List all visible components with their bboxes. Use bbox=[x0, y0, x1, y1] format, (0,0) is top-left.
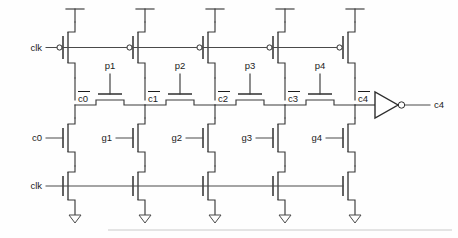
vdd-terminal bbox=[136, 9, 154, 22]
ground-symbol bbox=[209, 215, 221, 223]
column-spines-mid bbox=[75, 105, 355, 118]
pmos-transistor bbox=[127, 22, 145, 78]
pass-gate-label-p4: p4 bbox=[315, 60, 326, 71]
schematic-canvas: clk bbox=[0, 0, 458, 238]
node-label-cbar4: c4 bbox=[358, 92, 370, 105]
pmos-transistor bbox=[337, 22, 355, 78]
node-label-text: c0 bbox=[78, 93, 88, 104]
node-label-cbar0: c0 bbox=[78, 92, 90, 105]
vdd-terminal bbox=[206, 9, 224, 22]
node-label-text: c2 bbox=[218, 93, 228, 104]
circuit-schematic: clk bbox=[0, 0, 458, 238]
node-label-cbar2: c2 bbox=[218, 92, 230, 105]
generate-gate-label-g2: g2 bbox=[171, 132, 182, 143]
ground-symbol bbox=[139, 215, 151, 223]
ground-symbol bbox=[279, 215, 291, 223]
nmos-transistor bbox=[186, 118, 215, 166]
ground-symbols bbox=[69, 215, 361, 223]
nmos-transistor bbox=[203, 166, 215, 215]
vdd-terminal bbox=[66, 9, 84, 22]
pmos-transistor bbox=[57, 22, 75, 78]
pass-gate-label-p2: p2 bbox=[175, 60, 186, 71]
generate-gate-label-g1: g1 bbox=[101, 132, 112, 143]
nmos-transistor bbox=[326, 118, 355, 166]
node-label-text: c4 bbox=[358, 93, 368, 104]
vdd-terminal bbox=[346, 9, 364, 22]
nmos-evaluate-row bbox=[63, 166, 355, 215]
pmos-transistor bbox=[267, 22, 285, 78]
node-label-text: c1 bbox=[148, 93, 158, 104]
generate-gate-label-g4: g4 bbox=[311, 132, 322, 143]
inverter-bubble-icon bbox=[398, 102, 404, 108]
column-spines-upper bbox=[75, 78, 355, 100]
node-label-cbar3: c3 bbox=[288, 92, 300, 105]
pmos-precharge-row bbox=[57, 22, 355, 78]
nmos-transistor bbox=[256, 118, 285, 166]
vdd-terminal bbox=[276, 9, 294, 22]
ground-symbol bbox=[349, 215, 361, 223]
carry-out-label: c4 bbox=[434, 99, 444, 110]
nmos-transistor bbox=[343, 166, 355, 215]
nmos-transistor bbox=[273, 166, 285, 215]
ground-symbol bbox=[69, 215, 81, 223]
nmos-generate-row bbox=[46, 118, 355, 166]
nmos-transistor bbox=[133, 166, 145, 215]
node-label-cbar1: c1 bbox=[148, 92, 160, 105]
nmos-transistor bbox=[63, 166, 75, 215]
vdd-terminals bbox=[66, 9, 364, 22]
pass-gate-label-p1: p1 bbox=[105, 60, 116, 71]
nmos-transistor bbox=[116, 118, 145, 166]
nmos-transistor bbox=[46, 118, 75, 166]
clk-bottom-label: clk bbox=[30, 180, 42, 191]
pmos-transistor bbox=[197, 22, 215, 78]
generate-gate-label-g3: g3 bbox=[241, 132, 252, 143]
clk-top-label: clk bbox=[30, 42, 42, 53]
carry-in-label: c0 bbox=[32, 132, 42, 143]
node-label-text: c3 bbox=[288, 93, 298, 104]
pass-gate-label-p3: p3 bbox=[245, 60, 256, 71]
